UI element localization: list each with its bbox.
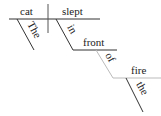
the-modifier-word: The (25, 19, 44, 40)
verb-word: slept (62, 5, 83, 17)
of-preposition-word: of (103, 50, 118, 64)
subject-word: cat (20, 5, 33, 17)
front-object-word: front (83, 36, 104, 48)
fire-object-word: fire (131, 64, 146, 76)
sentence-diagram: cat slept The in front of fire the (0, 0, 161, 116)
in-preposition-word: in (65, 22, 80, 36)
the-lower-modifier-word: the (134, 79, 151, 97)
